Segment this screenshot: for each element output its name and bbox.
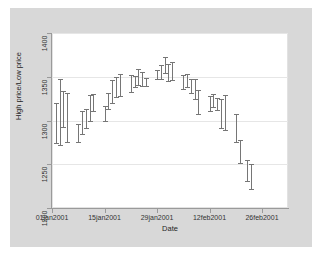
range-bar bbox=[112, 80, 113, 103]
range-bar-cap-low bbox=[91, 111, 96, 112]
range-bar bbox=[236, 114, 237, 143]
range-bar-cap-high bbox=[58, 79, 63, 80]
range-bar bbox=[116, 77, 117, 97]
range-bar-cap-high bbox=[114, 77, 119, 78]
range-bar-cap-low bbox=[245, 181, 250, 182]
range-bar bbox=[138, 69, 139, 85]
x-tick-label-15jan2001: 15jan2001 bbox=[88, 214, 121, 221]
y-tick-1200 bbox=[47, 208, 51, 209]
range-bar-cap-high bbox=[80, 111, 85, 112]
range-bar-cap-low bbox=[211, 107, 216, 108]
range-bar bbox=[56, 103, 57, 143]
range-bar-cap-low bbox=[234, 142, 239, 143]
range-bar bbox=[142, 72, 143, 85]
range-bar bbox=[247, 160, 248, 181]
range-bar-cap-high bbox=[196, 90, 201, 91]
range-bar-cap-high bbox=[144, 78, 149, 79]
chart-screenshot: 12001250130013501400 01jan200115jan20012… bbox=[0, 0, 322, 255]
range-bar bbox=[82, 111, 83, 134]
range-bar-cap-low bbox=[144, 86, 149, 87]
range-bar-cap-high bbox=[245, 160, 250, 161]
range-bar bbox=[120, 74, 121, 96]
range-bar-cap-high bbox=[163, 57, 168, 58]
range-bar-cap-high bbox=[170, 62, 175, 63]
range-bar-cap-high bbox=[84, 109, 89, 110]
range-bar-cap-low bbox=[118, 96, 123, 97]
range-bar bbox=[60, 79, 61, 146]
range-bar bbox=[93, 94, 94, 111]
range-bar-cap-low bbox=[114, 97, 119, 98]
range-bar-cap-low bbox=[238, 163, 243, 164]
range-bar-cap-low bbox=[65, 142, 70, 143]
range-bar-cap-high bbox=[61, 91, 66, 92]
x-axis-line bbox=[51, 208, 289, 209]
range-bar bbox=[240, 140, 241, 163]
range-bar-cap-high bbox=[249, 164, 254, 165]
range-bar-cap-low bbox=[103, 121, 108, 122]
range-bar bbox=[187, 74, 188, 87]
y-axis-line bbox=[51, 33, 52, 209]
y-tick-label-1400: 1400 bbox=[41, 33, 48, 55]
x-tick-label-26feb2001: 26feb2001 bbox=[245, 214, 278, 221]
range-bar bbox=[78, 124, 79, 142]
range-bar-cap-low bbox=[208, 111, 213, 112]
range-bar-cap-low bbox=[215, 110, 220, 111]
range-bar bbox=[131, 75, 132, 92]
range-bar-cap-low bbox=[185, 87, 190, 88]
range-bar bbox=[198, 90, 199, 114]
range-bar-cap-low bbox=[80, 134, 85, 135]
range-bar-cap-high bbox=[185, 74, 190, 75]
x-tick-label-29jan2001: 29jan2001 bbox=[141, 214, 174, 221]
range-bar bbox=[217, 98, 218, 110]
range-bar-cap-low bbox=[219, 128, 224, 129]
range-bar bbox=[172, 62, 173, 80]
range-bar-cap-low bbox=[249, 189, 254, 190]
range-bar-cap-high bbox=[219, 99, 224, 100]
range-bar bbox=[183, 75, 184, 89]
range-bar-cap-low bbox=[84, 128, 89, 129]
range-bar bbox=[213, 94, 214, 107]
range-bar-cap-low bbox=[196, 114, 201, 115]
range-bar bbox=[225, 95, 226, 130]
range-bar-cap-high bbox=[155, 70, 160, 71]
x-tick-label-01jan2001: 01jan2001 bbox=[36, 214, 69, 221]
y-tick-label-1250: 1250 bbox=[41, 164, 48, 186]
range-bar bbox=[157, 70, 158, 80]
range-bar-cap-low bbox=[54, 143, 59, 144]
range-bar bbox=[63, 91, 64, 127]
x-tick-12feb2001 bbox=[210, 209, 211, 213]
x-tick-label-12feb2001: 12feb2001 bbox=[193, 214, 226, 221]
range-bar-cap-low bbox=[181, 89, 186, 90]
y-tick-1400 bbox=[47, 33, 51, 34]
range-bar-cap-high bbox=[193, 79, 198, 80]
gridline-y-1400 bbox=[52, 33, 288, 34]
y-tick-label-1350: 1350 bbox=[41, 76, 48, 98]
range-bar-cap-high bbox=[223, 95, 228, 96]
range-bar-cap-low bbox=[129, 92, 134, 93]
range-bar-cap-high bbox=[159, 65, 164, 66]
range-bar-cap-high bbox=[76, 124, 81, 125]
range-bar-cap-low bbox=[170, 80, 175, 81]
range-bar-cap-high bbox=[181, 75, 186, 76]
range-bar-cap-low bbox=[189, 93, 194, 94]
range-bar-cap-high bbox=[91, 94, 96, 95]
range-bar bbox=[221, 99, 222, 129]
range-bar-cap-high bbox=[140, 72, 145, 73]
range-bar-cap-low bbox=[106, 109, 111, 110]
range-bar-cap-low bbox=[110, 103, 115, 104]
range-bar bbox=[67, 93, 68, 141]
y-tick-1300 bbox=[47, 121, 51, 122]
range-bar-cap-low bbox=[223, 130, 228, 131]
range-bar bbox=[195, 79, 196, 99]
y-tick-label-1300: 1300 bbox=[41, 120, 48, 142]
x-tick-29jan2001 bbox=[157, 209, 158, 213]
range-bar bbox=[105, 106, 106, 121]
range-bar-cap-high bbox=[136, 69, 141, 70]
range-bar-cap-low bbox=[61, 127, 66, 128]
range-bar-cap-low bbox=[58, 145, 63, 146]
range-bar-cap-high bbox=[238, 140, 243, 141]
range-bar-cap-high bbox=[110, 80, 115, 81]
y-tick-1350 bbox=[47, 77, 51, 78]
range-bar-cap-high bbox=[106, 93, 111, 94]
range-bar-cap-low bbox=[88, 121, 93, 122]
